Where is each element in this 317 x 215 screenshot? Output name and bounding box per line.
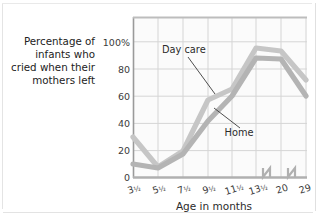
- x-tick-label-11half: 11½: [223, 180, 245, 196]
- x-tick-frac-3: ½: [132, 183, 141, 194]
- x-tick-whole-29: 29: [297, 182, 312, 196]
- home-annotation-label: Home: [225, 127, 254, 138]
- y-tick-label-20: 20: [118, 145, 130, 156]
- line-chart: 100% 80 60 40 20 0 3½ 5½ 7½ 9½ 11½: [0, 0, 317, 215]
- day-care-annotation-label: Day care: [162, 44, 206, 55]
- y-axis-title-line-4: mothers left: [32, 74, 95, 86]
- figure-container: 100% 80 60 40 20 0 3½ 5½ 7½ 9½ 11½: [0, 0, 317, 215]
- x-tick-frac-9: ½: [207, 183, 216, 194]
- x-tick-frac-11: ½: [235, 182, 244, 193]
- x-tick-frac-5: ½: [157, 183, 166, 194]
- y-tick-label-60: 60: [118, 91, 130, 102]
- x-tick-label-7half: 7½: [176, 181, 192, 195]
- x-tick-frac-7: ½: [182, 183, 191, 194]
- y-tick-label-40: 40: [118, 118, 130, 129]
- x-tick-label-9half: 9½: [201, 181, 217, 195]
- y-axis-title-line-3: cried when their: [11, 61, 96, 73]
- x-tick-label-13half: 13½: [247, 180, 269, 196]
- x-axis-title: Age in months: [176, 200, 252, 212]
- x-tick-label-29: 29: [297, 182, 312, 196]
- y-tick-label-100: 100%: [103, 37, 130, 48]
- x-tick-label-5half: 5½: [151, 181, 167, 195]
- x-axis-tick-labels: 3½ 5½ 7½ 9½ 11½ 13½ 20 29: [126, 180, 312, 196]
- x-tick-label-3half: 3½: [126, 181, 142, 195]
- x-tick-label-20: 20: [274, 182, 289, 196]
- x-tick-whole-20: 20: [274, 182, 289, 196]
- y-axis-tick-labels: 100% 80 60 40 20 0: [103, 37, 130, 184]
- y-axis-title-line-1: Percentage of: [24, 35, 95, 47]
- y-tick-label-0: 0: [124, 172, 130, 183]
- y-axis-title: Percentage of infants who cried when the…: [11, 35, 96, 86]
- x-tick-frac-13: ½: [259, 182, 268, 193]
- y-tick-label-80: 80: [118, 64, 130, 75]
- y-axis-title-line-2: infants who: [35, 48, 95, 60]
